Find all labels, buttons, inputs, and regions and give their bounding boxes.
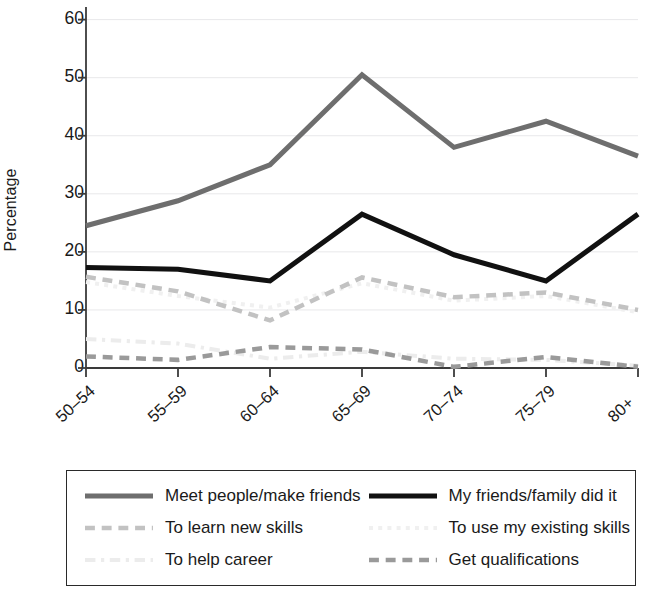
x-axis-tick-label: 55–59 <box>144 381 191 426</box>
legend-swatch-icon <box>83 553 155 567</box>
line-chart: Percentage 0102030405060 50–5455–5960–64… <box>0 0 647 592</box>
legend-swatch-icon <box>367 489 439 503</box>
x-axis-tick-label: 75–79 <box>512 381 559 426</box>
legend-label: My friends/family did it <box>449 486 617 506</box>
legend-label: To use my existing skills <box>449 518 630 538</box>
legend-label: Get qualifications <box>449 550 579 570</box>
legend: Meet people/make friendsMy friends/famil… <box>66 470 636 586</box>
legend-label: To learn new skills <box>165 518 303 538</box>
legend-label: To help career <box>165 550 273 570</box>
legend-swatch-icon <box>83 489 155 503</box>
x-axis-tick-label: 70–74 <box>420 381 467 426</box>
x-axis-tick-label: 65–69 <box>328 381 375 426</box>
x-axis-tick-label: 50–54 <box>52 381 99 426</box>
x-axis-tick-label: 60–64 <box>236 381 283 426</box>
legend-swatch-icon <box>367 553 439 567</box>
x-axis-tick-labels: 50–5455–5960–6465–6970–7475–7980+ <box>0 0 647 465</box>
legend-swatch-icon <box>367 521 439 535</box>
x-axis-tick-label: 80+ <box>604 393 638 426</box>
legend-item[interactable]: To help career <box>83 544 361 576</box>
legend-item[interactable]: To use my existing skills <box>367 512 630 544</box>
legend-item[interactable]: Meet people/make friends <box>83 480 361 512</box>
legend-label: Meet people/make friends <box>165 486 361 506</box>
legend-item[interactable]: Get qualifications <box>367 544 630 576</box>
plot-area-wrapper: Percentage 0102030405060 50–5455–5960–64… <box>0 0 647 465</box>
legend-item[interactable]: To learn new skills <box>83 512 361 544</box>
legend-swatch-icon <box>83 521 155 535</box>
legend-item[interactable]: My friends/family did it <box>367 480 630 512</box>
